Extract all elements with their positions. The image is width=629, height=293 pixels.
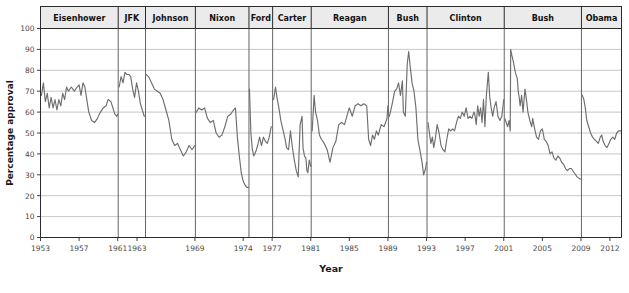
president-label-reagan-6: Reagan	[333, 14, 367, 23]
x-tick-label-1977: 1977	[263, 244, 282, 253]
president-label-clinton-8: Clinton	[450, 14, 482, 23]
president-label-carter-5: Carter	[278, 14, 306, 23]
president-label-ford-4: Ford	[251, 14, 272, 23]
y-tick-label-80: 80	[25, 66, 35, 75]
x-tick-label-1969: 1969	[185, 244, 204, 253]
x-tick-label-1997: 1997	[456, 244, 475, 253]
x-tick-label-1989: 1989	[378, 244, 397, 253]
y-tick-label-50: 50	[25, 129, 35, 138]
president-label-jfk-1: JFK	[124, 14, 140, 23]
y-tick-label-10: 10	[25, 212, 35, 221]
x-axis-title: Year	[318, 263, 343, 274]
x-tick-label-1953: 1953	[31, 244, 50, 253]
x-tick-label-1957: 1957	[70, 244, 89, 253]
president-band-row: EisenhowerJFKJohnsonNixonFordCarterReaga…	[41, 7, 622, 29]
x-tick-label-2009: 2009	[571, 244, 590, 253]
y-tick-label-60: 60	[25, 108, 35, 117]
presidential-approval-chart: EisenhowerJFKJohnsonNixonFordCarterReaga…	[0, 0, 629, 293]
y-tick-label-30: 30	[25, 171, 35, 180]
president-label-eisenhower-0: Eisenhower	[53, 14, 105, 23]
x-tick-label-1961: 1961	[108, 244, 127, 253]
x-tick-label-2012: 2012	[600, 244, 619, 253]
president-label-bush-7: Bush	[397, 14, 420, 23]
x-tick-label-2005: 2005	[533, 244, 552, 253]
y-axis-title: Percentage approval	[5, 80, 15, 186]
y-tick-label-40: 40	[25, 150, 35, 159]
chart-canvas: EisenhowerJFKJohnsonNixonFordCarterReaga…	[0, 0, 629, 293]
y-tick-label-100: 100	[20, 24, 35, 33]
x-tick-label-1981: 1981	[301, 244, 320, 253]
y-tick-label-70: 70	[25, 87, 35, 96]
x-tick-label-1963: 1963	[127, 244, 146, 253]
president-label-obama-10: Obama	[586, 14, 618, 23]
x-tick-label-1985: 1985	[340, 244, 359, 253]
president-label-bush-9: Bush	[532, 14, 555, 23]
y-tick-label-90: 90	[25, 45, 35, 54]
y-tick-label-20: 20	[25, 192, 35, 201]
y-tick-label-0: 0	[30, 233, 35, 242]
x-tick-label-2001: 2001	[494, 244, 513, 253]
x-tick-label-1974: 1974	[234, 244, 253, 253]
x-tick-label-1993: 1993	[417, 244, 436, 253]
president-label-nixon-3: Nixon	[209, 14, 235, 23]
president-label-johnson-2: Johnson	[152, 14, 189, 23]
